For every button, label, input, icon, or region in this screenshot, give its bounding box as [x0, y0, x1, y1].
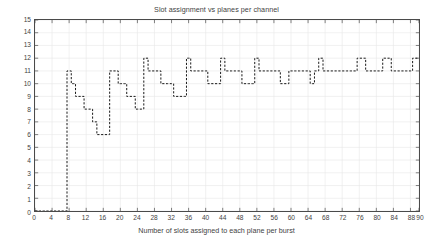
y-tick-label: 8 — [5, 106, 31, 113]
chart-figure: Slot assignment vs planes per channel 01… — [0, 0, 433, 247]
y-axis-tick-labels: 0123456789101112131415 — [4, 19, 31, 212]
y-tick-label: 3 — [5, 170, 31, 177]
x-tick-label: 90 — [408, 214, 432, 222]
y-tick-label: 12 — [5, 54, 31, 61]
y-tick-label: 13 — [5, 41, 31, 48]
x-axis-label: Number of slots assigned to each plane p… — [0, 226, 433, 235]
y-tick-label: 5 — [5, 144, 31, 151]
y-tick-label: 7 — [5, 118, 31, 125]
y-tick-label: 6 — [5, 131, 31, 138]
y-tick-label: 4 — [5, 157, 31, 164]
y-tick-label: 14 — [5, 28, 31, 35]
y-tick-label: 11 — [5, 67, 31, 74]
y-tick-label: 2 — [5, 183, 31, 190]
plot-area — [34, 19, 420, 212]
y-tick-label: 10 — [5, 80, 31, 87]
chart-title: Slot assignment vs planes per channel — [0, 5, 433, 14]
y-tick-label: 15 — [5, 16, 31, 23]
y-tick-label: 1 — [5, 196, 31, 203]
data-series-line — [35, 20, 419, 211]
y-tick-label: 9 — [5, 93, 31, 100]
x-axis-tick-labels: 0481216202428323640444852566064687276808… — [34, 214, 420, 224]
